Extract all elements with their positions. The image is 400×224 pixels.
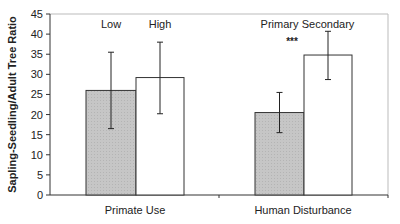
y-axis-label: Sapling-Seedling/Adult Tree Ratio: [6, 16, 18, 193]
y-tick-label: 0: [37, 189, 43, 201]
bar-label: High: [149, 18, 172, 30]
significance-annotation: ***: [286, 36, 298, 47]
bar-label: Primary: [261, 18, 299, 30]
y-tick-label: 5: [37, 169, 43, 181]
y-tick-label: 25: [31, 88, 43, 100]
x-category-label: Primate Use: [105, 204, 166, 216]
y-tick-label: 45: [31, 8, 43, 20]
y-tick-label: 35: [31, 48, 43, 60]
y-tick-label: 10: [31, 149, 43, 161]
y-tick-label: 30: [31, 68, 43, 80]
bar-chart: 051015202530354045Sapling-Seedling/Adult…: [0, 0, 400, 224]
x-category-label: Human Disturbance: [254, 204, 351, 216]
y-tick-label: 40: [31, 28, 43, 40]
bar-label: Secondary: [302, 18, 355, 30]
chart-canvas: 051015202530354045Sapling-Seedling/Adult…: [0, 0, 400, 224]
y-tick-label: 15: [31, 129, 43, 141]
y-tick-label: 20: [31, 109, 43, 121]
bar-label: Low: [101, 18, 121, 30]
